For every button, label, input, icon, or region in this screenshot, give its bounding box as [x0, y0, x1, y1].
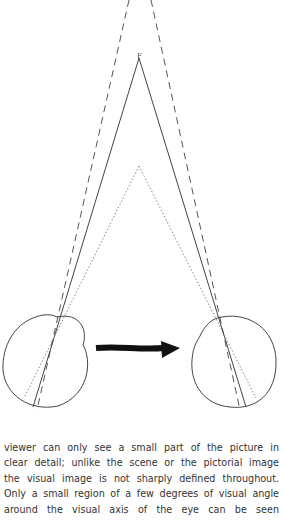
eye-convergence-diagram: F [0, 0, 283, 440]
text-line: clear detail; unlike the scene or the pi… [4, 455, 279, 470]
text-line: Only a small region of a few degrees of … [4, 486, 279, 501]
fixation-point-label: F [137, 52, 142, 60]
left-eye [3, 315, 88, 407]
eye-movement-arrow-icon [96, 341, 180, 358]
dotted-sightlines [24, 166, 256, 398]
solid-sightlines [33, 58, 246, 407]
body-text: viewer can only see a small part of the … [4, 440, 279, 517]
text-line: viewer can only see a small part of the … [4, 440, 279, 455]
text-line: around the visual axis of the eye can be… [4, 502, 279, 517]
text-line: the visual image is not sharply defined … [4, 471, 279, 486]
right-eye [192, 316, 276, 407]
